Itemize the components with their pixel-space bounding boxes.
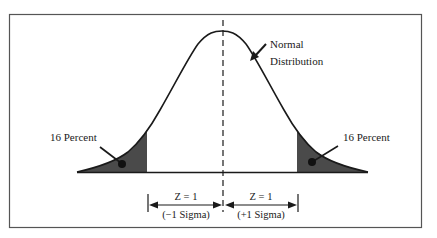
right-tail-label: 16 Percent: [343, 131, 390, 143]
right-interval-sigma-label: (+1 Sigma): [237, 209, 285, 221]
left-interval-z-label: Z = 1: [175, 191, 198, 202]
normal-distribution-diagram: Normal Distribution 16 Percent 16 Percen…: [0, 0, 437, 238]
diagram-frame: [10, 15, 422, 228]
left-interval-sigma-label: (−1 Sigma): [162, 209, 210, 221]
curve-label-line2: Distribution: [270, 55, 324, 67]
right-interval-z-label: Z = 1: [250, 191, 273, 202]
curve-label-line1: Normal: [270, 38, 304, 50]
left-tail-label: 16 Percent: [50, 131, 97, 143]
